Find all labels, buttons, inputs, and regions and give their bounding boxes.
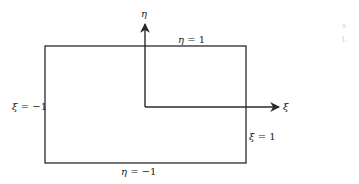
eta-axis-label: η: [141, 8, 147, 19]
scan-artifact-1: x: [342, 21, 346, 30]
edge-label-bottom-eq: = −1: [127, 166, 156, 177]
edge-label-top-eq: = 1: [184, 34, 205, 45]
edge-label-top: η = 1: [178, 34, 205, 45]
edge-label-bottom: η = −1: [121, 166, 156, 177]
edge-label-right: ξ = 1: [249, 131, 276, 142]
scan-artifact-2: L: [342, 35, 347, 44]
xi-axis-label: ξ: [283, 101, 289, 112]
edge-label-left-eq: = −1: [18, 101, 47, 112]
edge-label-left: ξ = −1: [12, 101, 47, 112]
reference-element-diagram: η ξ η = 1 η = −1 ξ = −1 ξ = 1 x L: [0, 0, 359, 184]
edge-label-right-eq: = 1: [255, 131, 276, 142]
